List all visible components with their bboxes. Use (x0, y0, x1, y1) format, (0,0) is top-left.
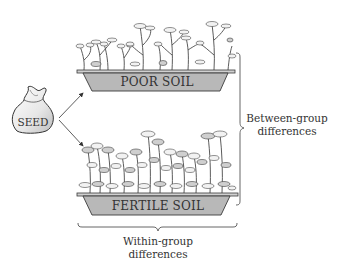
within-group-brace: Within-group differences (78, 223, 237, 260)
between-group-brace: Between-group differences (236, 53, 328, 205)
fertile-soil-plants (79, 131, 236, 193)
fertile-soil-label: FERTILE SOIL (112, 199, 204, 213)
arrow-to-poor-soil (59, 93, 83, 118)
fertile-soil-tray: FERTILE SOIL (77, 193, 238, 215)
poor-soil-plants (76, 22, 236, 71)
poor-soil-tray: POOR SOIL (77, 70, 235, 91)
between-group-label: Between-group (246, 112, 328, 124)
arrow-to-fertile-soil (59, 120, 83, 146)
poor-soil-label: POOR SOIL (120, 75, 193, 89)
between-group-label-line2: differences (257, 125, 316, 137)
seed-soil-diagram: SEED (0, 0, 345, 274)
within-group-label-line2: differences (128, 248, 187, 260)
seed-bag: SEED (12, 86, 53, 133)
seed-label: SEED (18, 116, 49, 128)
within-group-label: Within-group (123, 235, 193, 247)
